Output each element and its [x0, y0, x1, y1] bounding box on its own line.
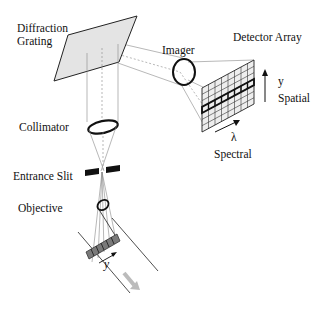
spatial-label: Spatial — [278, 92, 310, 104]
entrance-slit-left — [85, 168, 99, 176]
detector-array-label: Detector Array — [233, 31, 302, 43]
spectral-label: Spectral — [214, 148, 252, 160]
collimator-label: Collimator — [19, 121, 69, 133]
objective-label: Objective — [18, 202, 63, 214]
swath-edge-right — [112, 218, 158, 271]
grating-label-line2: Grating — [17, 35, 52, 47]
motion-arrow-icon — [124, 273, 140, 290]
sample-y-label: y — [104, 258, 109, 270]
spatial-arrowhead — [262, 69, 268, 76]
grating-label-line1: Diffraction — [17, 22, 68, 34]
imager-label: Imager — [162, 44, 195, 56]
detector-array — [202, 60, 254, 132]
imager-lens — [173, 59, 195, 85]
y-axis-label: y — [278, 75, 284, 87]
sample-stripe — [86, 234, 120, 259]
entrance-slit-right — [106, 165, 120, 173]
lambda-label: λ — [231, 131, 237, 143]
entrance-slit-label: Entrance Slit — [13, 170, 73, 182]
